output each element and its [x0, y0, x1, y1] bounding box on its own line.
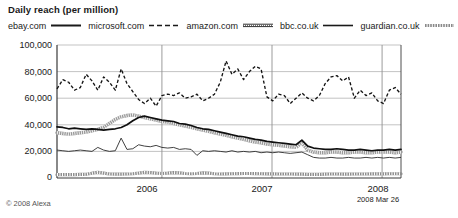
legend-swatch-hatched-icon: [424, 21, 454, 30]
